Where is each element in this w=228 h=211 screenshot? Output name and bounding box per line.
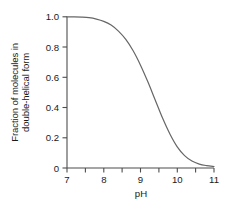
x-axis-ticks [67, 168, 214, 173]
chart-figure: 1.0 0.8 0.6 0.4 0.2 0 7 8 9 10 11 Fracti… [0, 0, 228, 211]
x-tick-label: 8 [94, 174, 114, 185]
x-tick-label: 11 [204, 174, 224, 185]
y-tick-label: 1.0 [33, 11, 59, 22]
y-tick-label: 0.2 [33, 132, 59, 143]
y-tick-label: 0.4 [33, 102, 59, 113]
y-axis-ticks [63, 17, 68, 168]
x-axis-title: pH [67, 188, 215, 199]
x-tick-label: 10 [167, 174, 187, 185]
y-tick-label: 0 [33, 163, 59, 174]
y-tick-label: 0.8 [33, 42, 59, 53]
x-tick-label: 9 [131, 174, 151, 185]
data-series-line [67, 17, 214, 167]
x-tick-label: 7 [57, 174, 77, 185]
y-tick-label: 0.6 [33, 72, 59, 83]
